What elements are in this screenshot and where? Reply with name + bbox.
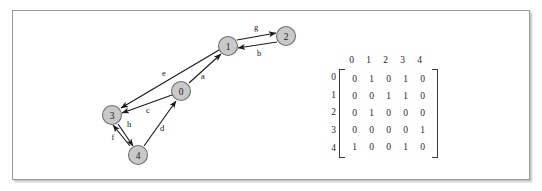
matrix-cell: 0: [414, 88, 431, 105]
matrix-cell: 0: [397, 122, 414, 139]
matrix-cell: 1: [397, 88, 414, 105]
matrix-cell: 1: [380, 88, 397, 105]
matrix-row: 0 0 1 1 0: [346, 88, 431, 105]
matrix-cell: 1: [363, 105, 380, 122]
matrix-column-header: 1: [360, 56, 377, 66]
matrix-cell: 0: [414, 71, 431, 88]
matrix-body: 0 1 2 3 4 0 1 0 1 0 0 0 1 1: [327, 69, 438, 158]
matrix-row-label: 1: [327, 87, 336, 104]
matrix-cell: 0: [380, 139, 397, 156]
matrix-cell: 0: [346, 105, 363, 122]
matrix-cell: 1: [346, 139, 363, 156]
matrix-row: 1 0 0 1 0: [346, 139, 431, 156]
matrix-column-header: 3: [394, 56, 411, 66]
matrix-cell: 0: [346, 71, 363, 88]
matrix-cell: 0: [414, 139, 431, 156]
matrix-cell: 0: [363, 139, 380, 156]
matrix-cell: 1: [397, 71, 414, 88]
matrix-column-header: 2: [377, 56, 394, 66]
matrix-cell: 0: [380, 105, 397, 122]
matrix-row-labels: 0 1 2 3 4: [327, 69, 339, 158]
matrix-column-headers: 0 1 2 3 4: [343, 56, 438, 66]
matrix-cell: 0: [414, 105, 431, 122]
matrix-cell: 0: [346, 122, 363, 139]
matrix-cell: 0: [363, 88, 380, 105]
matrix-cell: 0: [346, 88, 363, 105]
matrix-cell: 0: [380, 122, 397, 139]
adjacency-matrix: 0 1 2 3 4 0 1 2 3 4 0 1 0 1 0: [327, 56, 438, 158]
matrix-grid: 0 1 0 1 0 0 0 1 1 0 0 1 0 0: [345, 69, 432, 158]
matrix-row-label: 2: [327, 104, 336, 121]
matrix-row-label: 0: [327, 69, 336, 86]
matrix-column-header: 0: [343, 56, 360, 66]
matrix-right-bracket: [432, 69, 438, 158]
matrix-row-label: 4: [327, 140, 336, 157]
matrix-row: 0 1 0 1 0: [346, 71, 431, 88]
matrix-cell: 1: [414, 122, 431, 139]
matrix-row-label: 3: [327, 122, 336, 139]
matrix-cell: 1: [363, 71, 380, 88]
matrix-row: 0 0 0 0 1: [346, 122, 431, 139]
matrix-cell: 0: [397, 105, 414, 122]
figure-screenshot: 0 1 2 3 4 a b c d e f g h 0 1 2 3 4 0: [0, 0, 542, 191]
matrix-row: 0 1 0 0 0: [346, 105, 431, 122]
matrix-cell: 1: [397, 139, 414, 156]
figure-frame: [12, 10, 530, 180]
matrix-column-header: 4: [411, 56, 428, 66]
matrix-cell: 0: [380, 71, 397, 88]
matrix-cell: 0: [363, 122, 380, 139]
